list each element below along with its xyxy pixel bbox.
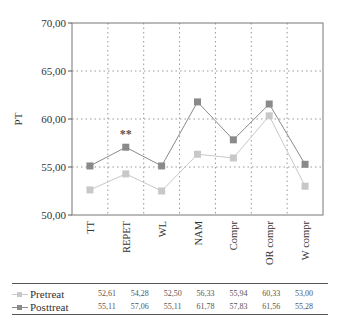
x-category-label: WL [157, 221, 168, 237]
data-point-marker [158, 188, 165, 195]
data-point-marker [302, 161, 309, 168]
legend-label: Pretreat [30, 288, 64, 300]
legend-marker-icon [12, 303, 28, 312]
y-tick-label: 65,00 [41, 65, 66, 77]
data-point-marker [86, 162, 93, 169]
x-category-label: W compr [300, 220, 311, 260]
table-cell-value: 55,28 [295, 300, 328, 313]
y-tick-label: 60,00 [41, 113, 66, 125]
table-cell-value: 60,33 [262, 287, 295, 300]
y-tick-label: 50,00 [41, 209, 66, 221]
x-category-label: OR compr [264, 221, 275, 266]
table-row: Pretreat52,6154,2852,5056,3355,9460,3353… [12, 287, 328, 300]
data-point-marker [230, 154, 237, 161]
data-point-marker [86, 186, 93, 193]
table-bottom-rule [12, 314, 328, 315]
table-cell-value: 56,33 [197, 287, 230, 300]
table-cell-value: 53,00 [295, 287, 328, 300]
x-category-label: NAM [193, 220, 204, 245]
data-point-marker [194, 98, 201, 105]
gridlines [72, 23, 323, 215]
data-point-marker [122, 170, 129, 177]
table-cell-value: 55,11 [98, 300, 131, 313]
data-point-marker [158, 162, 165, 169]
plot-area-frame [72, 23, 323, 215]
legend-marker-icon [12, 290, 28, 299]
table-cell-value: 61,78 [197, 300, 230, 313]
x-category-label: Compr [228, 221, 239, 251]
table-cell-value: 55,94 [229, 287, 262, 300]
series-lines [86, 98, 308, 194]
table-cell-value: 61,56 [262, 300, 295, 313]
legend-entry: Posttreat [12, 300, 98, 313]
table-row: Posttreat55,1157,0655,1161,7857,8361,565… [12, 300, 328, 313]
legend-entry: Pretreat [12, 287, 98, 300]
data-point-marker [266, 112, 273, 119]
y-axis-title: PT [12, 112, 24, 125]
table-cell-value: 57,06 [131, 300, 164, 313]
significance-annotation: ** [120, 127, 132, 141]
x-category-label: REPET [121, 220, 132, 253]
x-category-label: TT [85, 220, 96, 233]
annotations: ** [120, 127, 132, 141]
data-point-marker [122, 144, 129, 151]
x-axis: TTREPETWLNAMComprOR comprW compr [85, 220, 311, 265]
table-cell-value: 55,11 [164, 300, 197, 313]
table-cell-value: 54,28 [131, 287, 164, 300]
y-tick-label: 70,00 [41, 17, 66, 29]
table-cell-value: 52,61 [98, 287, 131, 300]
data-point-marker [194, 151, 201, 158]
table-cell-value: 57,83 [229, 300, 262, 313]
legend-label: Posttreat [30, 301, 69, 313]
line-chart: 50,0055,0060,0065,0070,00 PT TTREPETWLNA… [0, 0, 342, 285]
data-point-marker [302, 183, 309, 190]
table-top-rule [12, 283, 328, 284]
table-cell-value: 52,50 [164, 287, 197, 300]
y-axis: 50,0055,0060,0065,0070,00 [41, 17, 72, 221]
data-table: Pretreat52,6154,2852,5056,3355,9460,3353… [12, 287, 328, 313]
data-point-marker [266, 101, 273, 108]
y-tick-label: 55,00 [41, 161, 66, 173]
data-point-marker [230, 136, 237, 143]
